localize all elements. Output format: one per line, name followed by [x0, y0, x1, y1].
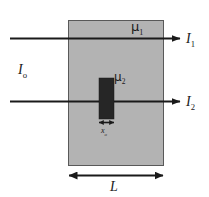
I2-subscript: 2	[191, 102, 195, 112]
attenuating-slab	[69, 21, 164, 166]
insert-thickness-label: xo	[101, 127, 107, 138]
mu2-symbol: μ	[114, 70, 122, 84]
embedded-absorber	[99, 78, 114, 119]
slab-thickness-label: L	[110, 180, 118, 194]
mu1-subscript: 1	[139, 28, 143, 37]
diagram-canvas	[0, 0, 209, 197]
x0-subscript: o	[105, 132, 107, 137]
I1-subscript: 1	[191, 39, 195, 49]
mu2-subscript: 2	[122, 77, 126, 86]
I0-subscript: o	[23, 70, 27, 80]
mu1-label: μ1	[131, 20, 143, 37]
mu2-label: μ2	[114, 71, 125, 86]
incident-intensity-label: Io	[18, 63, 27, 79]
upper-beam-output-label: I1	[186, 32, 195, 48]
physics-diagram: μ1 μ2 Io I1 I2 xo L	[0, 0, 209, 197]
lower-beam-output-label: I2	[186, 95, 195, 111]
